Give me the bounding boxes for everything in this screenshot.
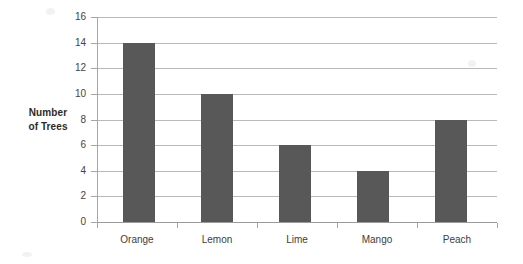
plot-area: [97, 17, 497, 222]
y-tick-label-8: 8: [58, 115, 86, 125]
x-category-label-lemon: Lemon: [177, 234, 257, 246]
scan-artifact: [22, 252, 32, 257]
bar-lime[interactable]: [279, 145, 311, 222]
y-tick-mark-2: [91, 196, 97, 197]
y-tick-mark-14: [91, 43, 97, 44]
y-tick-label-12: 12: [58, 63, 86, 73]
x-category-label-peach: Peach: [417, 234, 497, 246]
scan-artifact: [46, 8, 55, 15]
y-tick-label-2: 2: [58, 191, 86, 201]
bar-orange[interactable]: [123, 43, 155, 222]
gridline-10: [97, 94, 497, 95]
y-axis-line: [97, 17, 98, 223]
y-tick-mark-8: [91, 120, 97, 121]
gridline-16: [97, 17, 497, 18]
gridline-0-baseline: [97, 222, 497, 223]
y-tick-label-14: 14: [58, 38, 86, 48]
x-tick-mark-3: [337, 223, 338, 228]
y-tick-mark-16: [91, 17, 97, 18]
bar-mango[interactable]: [357, 171, 389, 222]
bar-peach[interactable]: [435, 120, 467, 223]
x-tick-mark-5: [497, 223, 498, 228]
bar-lemon[interactable]: [201, 94, 233, 222]
bar-chart-figure: Number of Trees 16 14 12 10 8 6 4 2 0: [0, 0, 523, 264]
x-tick-mark-0: [97, 223, 98, 228]
y-tick-mark-12: [91, 68, 97, 69]
y-tick-label-6: 6: [58, 140, 86, 150]
x-tick-mark-4: [417, 223, 418, 228]
x-category-label-orange: Orange: [97, 234, 177, 246]
x-tick-mark-2: [257, 223, 258, 228]
y-tick-mark-10: [91, 94, 97, 95]
x-tick-mark-1: [177, 223, 178, 228]
x-category-label-lime: Lime: [257, 234, 337, 246]
x-category-label-mango: Mango: [337, 234, 417, 246]
y-tick-label-0: 0: [58, 217, 86, 227]
y-tick-label-16: 16: [58, 12, 86, 22]
y-tick-mark-4: [91, 171, 97, 172]
y-tick-mark-6: [91, 145, 97, 146]
gridline-14: [97, 43, 497, 44]
y-tick-label-10: 10: [58, 89, 86, 99]
gridline-12: [97, 68, 497, 69]
y-tick-label-4: 4: [58, 166, 86, 176]
